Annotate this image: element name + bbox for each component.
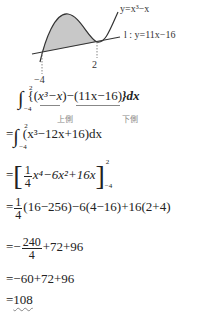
graph-figure: y=x³−x l : y=11x−16 2 −4	[0, 0, 221, 88]
step-7: =108	[6, 292, 33, 308]
curve-label: y=x³−x	[120, 3, 149, 14]
step-4: =14(16−256)−6(4−16)+16(2+4)	[6, 196, 170, 221]
final-result: 108	[13, 292, 33, 307]
step-3: =[14x⁴−6x²+16x]2−4	[6, 160, 113, 192]
x-tick-minus4: −4	[34, 74, 45, 85]
step-2: =∫2−4(x³−12x+16)dx	[6, 126, 102, 146]
step-1: ∫2−4{(x³−x)−(11x−16)}dx	[18, 88, 140, 108]
upper-expr: x³−x	[38, 88, 62, 104]
line-label: l : y=11x−16	[124, 29, 175, 40]
lower-expr: (11x−16)	[74, 88, 122, 104]
x-tick-2: 2	[92, 59, 97, 70]
integral-sign: ∫2−4	[18, 88, 23, 108]
step-6: =−60+72+96	[6, 271, 74, 287]
step-5: =−2404+72+96	[6, 236, 83, 261]
lower-side-label: 下側	[122, 113, 138, 124]
upper-side-label: 上側	[57, 113, 73, 124]
